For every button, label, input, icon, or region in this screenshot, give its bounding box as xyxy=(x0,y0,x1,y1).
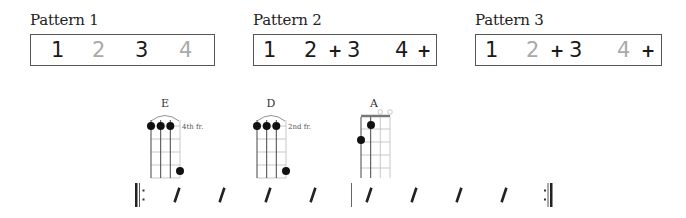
repeat-end-sign xyxy=(544,183,553,207)
fretboard-grid xyxy=(151,120,180,178)
finger-dots xyxy=(147,122,184,175)
chord-name-a: A xyxy=(369,97,379,110)
chord-diagram-d: D 2nd fr. xyxy=(253,97,311,178)
barre-arc xyxy=(151,116,179,122)
chord-diagram-e: E 4th fr. xyxy=(147,97,203,178)
chord-name-d: D xyxy=(267,97,276,110)
fretboard-grid xyxy=(361,117,390,178)
fretboard-grid xyxy=(257,120,286,178)
chord-diagram-a: A xyxy=(357,97,392,178)
finger-dots xyxy=(357,121,375,144)
repeat-start-sign xyxy=(135,183,145,207)
barre-arc xyxy=(257,116,285,122)
chord-name-e: E xyxy=(161,97,169,110)
strum-slashes-bar-1 xyxy=(175,189,315,201)
fret-position-label: 4th fr. xyxy=(182,123,203,131)
chord-and-strum-graphic: E 4th fr. D xyxy=(0,0,686,218)
strum-slashes-bar-2 xyxy=(367,189,506,201)
finger-dots xyxy=(253,122,290,175)
barline xyxy=(351,183,352,207)
strum-line xyxy=(135,183,553,207)
open-string-markers xyxy=(378,110,392,115)
fret-position-label: 2nd fr. xyxy=(288,123,311,131)
